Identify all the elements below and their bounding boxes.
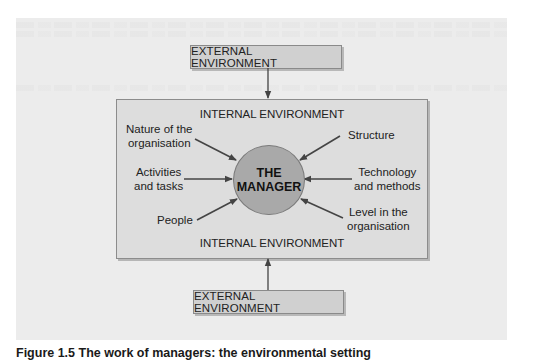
factor-line: Activities	[134, 165, 183, 179]
factor-structure: Structure	[348, 128, 395, 142]
arrow-nature	[195, 139, 236, 160]
manager-label-line1: THE	[257, 166, 282, 180]
factor-technology-and-methods: Technology and methods	[354, 165, 421, 193]
factor-nature-of-organisation: Nature of the organisation	[126, 122, 192, 150]
factor-line: and methods	[354, 179, 421, 193]
factor-line: organisation	[347, 219, 410, 233]
factor-level-in-organisation: Level in the organisation	[347, 205, 410, 233]
the-manager-circle: THE MANAGER	[233, 145, 305, 215]
arrow-level	[301, 199, 343, 218]
factor-line: People	[157, 213, 193, 227]
factor-line: Level in the	[347, 205, 410, 219]
factor-people: People	[157, 213, 193, 227]
manager-label-line2: MANAGER	[237, 180, 302, 194]
factor-line: Structure	[348, 128, 395, 142]
factor-line: Technology	[354, 165, 421, 179]
arrow-people	[197, 199, 237, 220]
factor-line: organisation	[126, 136, 192, 150]
arrow-structure	[300, 136, 340, 160]
factor-line: and tasks	[134, 179, 183, 193]
factor-activities-and-tasks: Activities and tasks	[134, 165, 183, 193]
figure-caption: Figure 1.5 The work of managers: the env…	[16, 346, 371, 360]
factor-line: Nature of the	[126, 122, 192, 136]
